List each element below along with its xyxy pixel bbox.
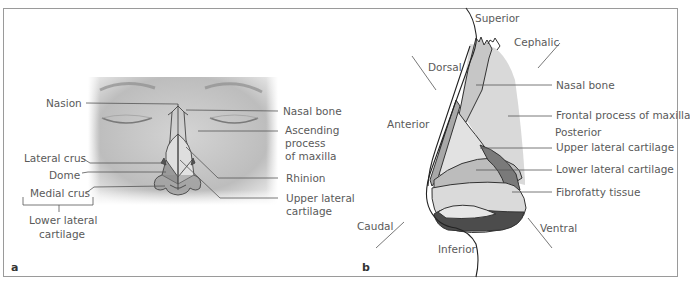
label-dome: Dome [49, 169, 80, 181]
label-rhinion: Rhinion [286, 172, 326, 184]
label-lateral-crus: Lateral crus [24, 152, 86, 164]
label-nasal-bone-b: Nasal bone [556, 79, 615, 91]
direction-superior: Superior [475, 12, 519, 24]
direction-ventral: Ventral [540, 222, 577, 234]
label-upper-lateral-b: Upper lateral cartilage [556, 141, 674, 153]
direction-anterior: Anterior [387, 118, 429, 130]
label-ascending-process-2: process [285, 137, 325, 149]
label-lower-lateral-2: cartilage [39, 228, 85, 240]
label-nasion: Nasion [46, 97, 82, 109]
label-fibrofatty: Fibrofatty tissue [556, 186, 640, 198]
label-upper-lateral-a-1: Upper lateral [286, 192, 355, 204]
label-lower-lateral-b: Lower lateral cartilage [556, 163, 674, 175]
direction-cephalic: Cephalic [514, 36, 559, 48]
label-medial-crus: Medial crus [30, 187, 90, 199]
label-nasal-bone-a: Nasal bone [283, 105, 342, 117]
direction-posterior: Posterior [555, 126, 601, 138]
direction-inferior: Inferior [438, 243, 476, 255]
panel-letter-a: a [11, 261, 18, 274]
label-lower-lateral-1: Lower lateral [29, 214, 97, 226]
direction-caudal: Caudal [357, 220, 393, 232]
panel-letter-b: b [362, 261, 370, 274]
label-ascending-process-3: of maxilla [285, 150, 337, 162]
direction-dorsal: Dorsal [428, 61, 462, 73]
label-upper-lateral-a-2: cartilage [286, 205, 332, 217]
label-frontal-process: Frontal process of maxilla [556, 109, 690, 121]
label-ascending-process-1: Ascending [285, 124, 339, 136]
